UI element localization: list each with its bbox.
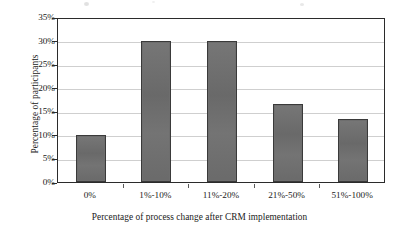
y-axis-tick-label: 30% — [15, 37, 55, 46]
bar-21to50[interactable] — [273, 104, 303, 182]
x-axis-tick-mark — [123, 184, 124, 188]
x-axis-tick-mark — [319, 184, 320, 188]
y-axis-tick-label: 15% — [15, 107, 55, 116]
x-axis-tick-mark — [188, 184, 189, 188]
plot-area — [57, 18, 385, 183]
bar-slot — [189, 19, 255, 182]
bar-slot — [255, 19, 321, 182]
x-axis-tick-label: 51%-100% — [312, 190, 392, 201]
bar-slot — [58, 19, 124, 182]
bar-51to100[interactable] — [338, 119, 368, 182]
y-axis-tick-label: 20% — [15, 84, 55, 93]
y-axis-tick-label: 10% — [15, 131, 55, 140]
bar-0[interactable] — [76, 135, 106, 182]
y-axis-tick-label: 5% — [15, 154, 55, 163]
bar-slot — [124, 19, 190, 182]
y-axis-tick-label: 0% — [15, 178, 55, 187]
y-axis-tick-label: 35% — [15, 13, 55, 22]
bar-slot — [320, 19, 386, 182]
y-axis-tick-label: 25% — [15, 60, 55, 69]
bar-chart-figure: Percentage of participants 0%5%10%15%20%… — [0, 0, 399, 235]
bar-1to10[interactable] — [141, 41, 171, 182]
bar-11to20[interactable] — [207, 41, 237, 182]
x-axis-title: Percentage of process change after CRM i… — [0, 212, 399, 222]
x-axis-tick-mark — [254, 184, 255, 188]
